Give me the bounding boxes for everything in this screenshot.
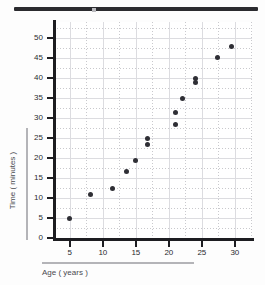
gridline-minor-vertical bbox=[251, 22, 252, 238]
y-axis-tick bbox=[47, 77, 53, 79]
scatter-plot: Time ( minutes ) Age ( years ) 051015202… bbox=[0, 0, 265, 285]
y-axis-tick-label: 45 bbox=[21, 54, 43, 62]
gridline-vertical bbox=[202, 22, 203, 238]
data-point bbox=[133, 158, 138, 163]
x-axis-tick bbox=[102, 241, 104, 247]
gridline-minor-vertical bbox=[119, 22, 120, 238]
y-axis-tick-label: 15 bbox=[21, 174, 43, 182]
gridline-vertical bbox=[70, 22, 71, 238]
plot-area bbox=[54, 22, 252, 238]
x-axis-tick bbox=[69, 241, 71, 247]
data-point bbox=[229, 44, 234, 49]
x-axis-title-rule bbox=[42, 262, 194, 264]
y-axis-tick bbox=[47, 197, 53, 199]
gridline-vertical bbox=[235, 22, 236, 238]
data-point bbox=[180, 96, 185, 101]
x-axis-tick-label: 15 bbox=[124, 249, 148, 257]
y-axis-tick bbox=[47, 57, 53, 59]
gridline-vertical bbox=[103, 22, 104, 238]
x-axis-tick-label: 20 bbox=[157, 249, 181, 257]
y-axis-tick-label: 35 bbox=[21, 94, 43, 102]
y-axis bbox=[53, 20, 56, 240]
y-axis-tick-label: 25 bbox=[21, 134, 43, 142]
x-axis bbox=[53, 238, 254, 241]
data-point bbox=[110, 186, 115, 191]
data-point bbox=[88, 192, 93, 197]
y-axis-tick bbox=[47, 117, 53, 119]
y-axis-title: Time ( minutes ) bbox=[8, 133, 17, 229]
y-axis-tick bbox=[47, 137, 53, 139]
y-axis-tick-label: 30 bbox=[21, 114, 43, 122]
gridline-vertical bbox=[169, 22, 170, 238]
y-axis-tick-label: 20 bbox=[21, 154, 43, 162]
x-axis-tick-label: 25 bbox=[190, 249, 214, 257]
x-axis-tick-label: 30 bbox=[223, 249, 247, 257]
x-axis-tick bbox=[168, 241, 170, 247]
y-axis-tick bbox=[47, 237, 53, 239]
gridline-minor-vertical bbox=[185, 22, 186, 238]
data-point bbox=[145, 136, 150, 141]
y-axis-tick-label: 10 bbox=[21, 194, 43, 202]
x-axis-tick bbox=[234, 241, 236, 247]
data-point bbox=[215, 55, 220, 60]
y-axis-tick-label: 5 bbox=[21, 214, 43, 222]
gridline-vertical bbox=[136, 22, 137, 238]
data-point bbox=[193, 80, 198, 85]
data-point bbox=[173, 110, 178, 115]
x-axis-title: Age ( years ) bbox=[42, 268, 88, 277]
y-axis-title-rule bbox=[26, 128, 28, 240]
y-axis-tick bbox=[47, 217, 53, 219]
x-axis-tick bbox=[201, 241, 203, 247]
y-axis-tick bbox=[47, 177, 53, 179]
data-point bbox=[173, 122, 178, 127]
gridline-minor-vertical bbox=[152, 22, 153, 238]
y-axis-tick bbox=[47, 157, 53, 159]
data-point bbox=[67, 216, 72, 221]
data-point bbox=[145, 142, 150, 147]
gridline-minor-vertical bbox=[86, 22, 87, 238]
x-axis-tick-label: 10 bbox=[91, 249, 115, 257]
x-axis-tick bbox=[135, 241, 137, 247]
chart-page: Time ( minutes ) Age ( years ) 051015202… bbox=[0, 0, 265, 285]
data-point bbox=[124, 169, 129, 174]
x-axis-tick-label: 5 bbox=[58, 249, 82, 257]
y-axis-tick bbox=[47, 97, 53, 99]
y-axis-tick bbox=[47, 37, 53, 39]
y-axis-tick-label: 0 bbox=[21, 234, 43, 242]
y-axis-tick-label: 50 bbox=[21, 34, 43, 42]
y-axis-tick-label: 40 bbox=[21, 74, 43, 82]
